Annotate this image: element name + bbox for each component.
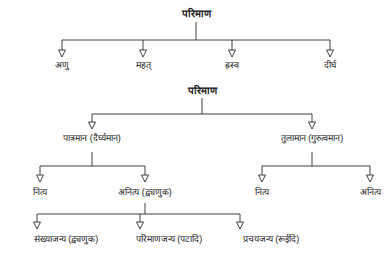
diagram-canvas: परिमाण अणु महत् ह्रस्व दीर्घ परिमाण पात्…: [0, 0, 391, 258]
arrow-b-left: [89, 122, 96, 129]
arrow-bottom-2: [137, 222, 144, 229]
arrow-bottom-3: [237, 222, 244, 229]
tree-b-leaf-prachayajanya: प्रचयजन्य (रूईदि): [243, 234, 300, 245]
arrow-b-right: [309, 122, 316, 129]
arrow-a-4: [327, 50, 334, 57]
tree-b-node-tulamana-nitya: नित्य: [255, 187, 269, 198]
arrow-a-3: [229, 50, 236, 57]
arrow-a-2: [140, 50, 147, 57]
arrow-right-1: [259, 175, 266, 182]
arrow-a-1: [59, 50, 66, 57]
arrow-left-1: [37, 175, 44, 182]
tree-a-leaf-anu: अणु: [55, 60, 69, 71]
tree-b-root-label: परिमाण: [188, 85, 217, 96]
arrow-left-2: [142, 175, 149, 182]
tree-b-node-tulamana-anitya: अनित्य: [360, 187, 381, 198]
tree-a-root-label: परिमाण: [182, 8, 211, 19]
tree-b-node-patramana-anitya: अनित्य (द्व्यणुक): [118, 187, 172, 198]
tree-b-node-tulamana: तुलामान (गुरुत्वमान): [281, 133, 344, 144]
tree-b-leaf-sankhyajanya: संख्याजन्य (द्व्यणुक): [34, 234, 99, 245]
tree-a-leaf-hrasva: ह्रस्व: [225, 60, 239, 71]
arrow-right-2: [367, 175, 374, 182]
tree-b-node-patramana: पात्रमान (दैर्घ्यमान): [63, 133, 121, 144]
connector-lines: [0, 0, 391, 258]
arrow-bottom-1: [34, 222, 41, 229]
tree-b-node-patramana-nitya: नित्य: [33, 187, 47, 198]
tree-a-leaf-mahat: महत्: [136, 60, 151, 71]
tree-a-leaf-dirgha: दीर्घ: [324, 60, 336, 71]
tree-b-leaf-parimanajanya: परिमाणजन्य (पटादि): [136, 234, 203, 245]
